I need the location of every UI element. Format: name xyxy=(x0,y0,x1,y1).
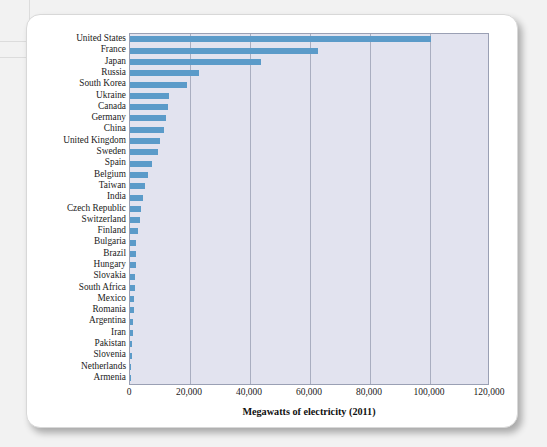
bar xyxy=(130,48,318,54)
bar xyxy=(130,240,136,246)
x-tick-label: 100,000 xyxy=(414,387,445,397)
bar xyxy=(130,104,168,110)
bar xyxy=(130,228,138,234)
bar xyxy=(130,319,133,325)
category-label: Belgium xyxy=(94,169,126,179)
category-label: Czech Republic xyxy=(67,203,126,213)
bar xyxy=(130,195,143,201)
bar xyxy=(130,375,131,381)
x-tick-label: 80,000 xyxy=(356,387,382,397)
category-label: Brazil xyxy=(103,248,126,258)
category-label: Finland xyxy=(98,225,126,235)
category-label: Hungary xyxy=(93,259,126,269)
category-label: Switzerland xyxy=(82,214,126,224)
category-label: United States xyxy=(76,33,126,43)
bar xyxy=(130,353,132,359)
category-label: Japan xyxy=(105,56,126,66)
category-label: Ukraine xyxy=(96,90,126,100)
category-label: China xyxy=(104,123,126,133)
bar xyxy=(130,82,187,88)
bar xyxy=(130,149,158,155)
bar xyxy=(130,251,136,257)
bar xyxy=(130,274,135,280)
category-label: Netherlands xyxy=(81,361,126,371)
bars-layer xyxy=(130,34,488,384)
bar xyxy=(130,364,131,370)
category-label: Spain xyxy=(105,157,126,167)
bar xyxy=(130,262,136,268)
category-axis-labels: United StatesFranceJapanRussiaSouth Kore… xyxy=(27,33,126,385)
category-label: South Africa xyxy=(79,282,126,292)
x-tick-label: 0 xyxy=(127,387,132,397)
category-label: Bulgaria xyxy=(94,236,126,246)
category-label: Slovakia xyxy=(93,270,126,280)
bar xyxy=(130,93,169,99)
x-tick-label: 120,000 xyxy=(474,387,505,397)
bar xyxy=(130,330,133,336)
category-label: Argentina xyxy=(89,315,126,325)
bar xyxy=(130,115,166,121)
category-label: Slovenia xyxy=(93,349,126,359)
category-label: Germany xyxy=(91,112,126,122)
x-tick-label: 40,000 xyxy=(236,387,262,397)
category-label: Russia xyxy=(101,67,126,77)
category-label: Iran xyxy=(111,327,126,337)
category-label: Canada xyxy=(98,101,126,111)
bar xyxy=(130,138,160,144)
category-label: Armenia xyxy=(93,372,126,382)
bar xyxy=(130,285,135,291)
bar xyxy=(130,70,199,76)
bar xyxy=(130,183,145,189)
figure-card: United StatesFranceJapanRussiaSouth Kore… xyxy=(26,14,518,428)
bar xyxy=(130,59,261,65)
x-axis-title: Megawatts of electricity (2011) xyxy=(129,406,489,417)
category-label: France xyxy=(101,44,126,54)
category-label: Taiwan xyxy=(99,180,126,190)
bar xyxy=(130,341,132,347)
bar xyxy=(130,307,134,313)
x-axis-tick-labels: 020,00040,00060,00080,000100,000120,000 xyxy=(129,387,489,403)
category-label: India xyxy=(107,191,126,201)
bar xyxy=(130,127,164,133)
bar xyxy=(130,161,152,167)
bar xyxy=(130,36,431,42)
bar xyxy=(130,206,141,212)
category-label: South Korea xyxy=(79,78,126,88)
category-label: Mexico xyxy=(98,293,126,303)
bar xyxy=(130,296,134,302)
bar xyxy=(130,217,140,223)
category-label: Sweden xyxy=(97,146,126,156)
bar xyxy=(130,172,148,178)
category-label: United Kingdom xyxy=(63,135,126,145)
x-tick-label: 60,000 xyxy=(296,387,322,397)
x-tick-label: 20,000 xyxy=(176,387,202,397)
bar-chart: United StatesFranceJapanRussiaSouth Kore… xyxy=(27,15,519,429)
category-label: Pakistan xyxy=(94,338,126,348)
category-label: Romania xyxy=(92,304,126,314)
